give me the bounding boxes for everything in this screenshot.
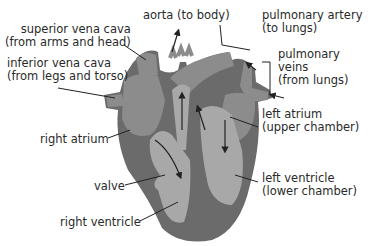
flow-arrow-pulmonary-vein-bottom [272, 95, 284, 98]
label-pulmonary-artery: pulmonary artery (to lungs) [262, 9, 362, 35]
label-line: right atrium [40, 133, 109, 146]
flow-arrow-aorta [172, 32, 178, 52]
label-right-atrium: right atrium [40, 133, 109, 146]
label-line: (from legs and torso) [7, 70, 128, 83]
heart-diagram: superior vena cava (from arms and head) … [0, 0, 371, 246]
label-left-ventricle: left ventricle (lower chamber) [262, 172, 357, 198]
inferior-vena-cava-vessel [106, 94, 124, 107]
label-line: valve [94, 180, 125, 193]
label-pulmonary-veins: pulmonary veins (from lungs) [278, 48, 348, 87]
label-line: (to lungs) [262, 22, 362, 35]
label-inferior-vena-cava: inferior vena cava (from legs and torso) [7, 57, 128, 83]
label-line: right ventricle [60, 216, 141, 229]
label-right-ventricle: right ventricle [60, 216, 141, 229]
label-line: (from arms and head) [5, 36, 131, 49]
label-line: (lower chamber) [262, 185, 357, 198]
label-line: (from lungs) [278, 74, 348, 87]
label-line: aorta (to body) [143, 9, 230, 22]
label-left-atrium: left atrium (upper chamber) [262, 108, 359, 134]
label-superior-vena-cava: superior vena cava (from arms and head) [5, 23, 131, 49]
label-aorta: aorta (to body) [143, 9, 230, 22]
label-valve: valve [94, 180, 125, 193]
label-line: (upper chamber) [262, 121, 359, 134]
